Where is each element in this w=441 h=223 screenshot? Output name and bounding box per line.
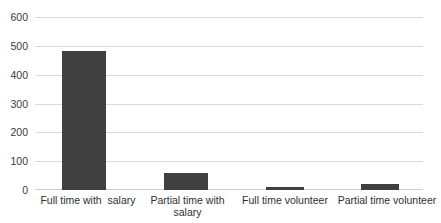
x-tick-label: Partial time volunteer [326,194,441,206]
y-tick-label: 200 [0,127,28,138]
plot-area: 600 500 400 300 200 100 0 [35,17,423,190]
chart-title [60,0,360,3]
y-tick-label: 500 [0,41,28,52]
x-axis-labels: Full time with salary Partial time with … [35,194,423,223]
y-tick-label: 400 [0,70,28,81]
bar[interactable] [361,184,399,190]
x-tick-label: Full time with salary [27,194,149,206]
y-tick-label: 600 [0,12,28,23]
y-tick-label: 0 [0,185,28,196]
y-tick-label: 300 [0,99,28,110]
bar[interactable] [164,173,208,190]
x-tick-label: Full time volunteer [231,194,339,206]
bar[interactable] [266,187,304,190]
gridline [35,46,423,47]
bar[interactable] [62,51,106,190]
x-tick-label: Partial time with salary [139,194,236,218]
gridline [35,17,423,18]
y-tick-label: 100 [0,156,28,167]
